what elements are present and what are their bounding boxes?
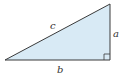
horizontal-leg-label: b [57,64,63,75]
hypotenuse-label: c [50,20,56,31]
triangle-shape [5,4,110,60]
vertical-leg-label: a [113,28,119,39]
right-triangle-diagram: c a b [0,0,121,82]
